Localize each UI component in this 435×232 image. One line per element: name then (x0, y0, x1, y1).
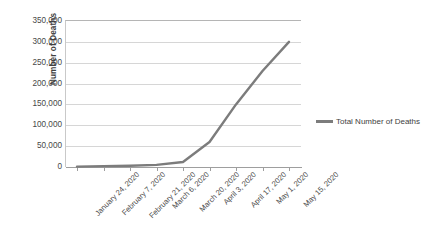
x-tick-label: January 24, 2020 (93, 170, 141, 218)
x-axis-tick-labels: January 24, 2020 February 7, 2020 Februa… (0, 0, 435, 232)
line-chart: Number of Deaths 350,000 300,000 250,000… (0, 0, 435, 232)
legend-label: Total Number of Deaths (336, 117, 420, 126)
legend-line-swatch (316, 120, 333, 123)
chart-legend: Total Number of Deaths (316, 117, 420, 126)
